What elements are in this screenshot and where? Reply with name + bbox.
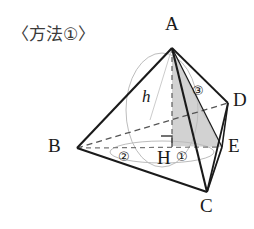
geometry-figure	[0, 0, 254, 229]
edge-C-E	[207, 147, 222, 192]
vertex-label-B: B	[48, 136, 61, 155]
vertex-label-D: D	[233, 90, 247, 109]
circled-number-three: ③	[192, 84, 204, 97]
height-label-h: h	[142, 88, 151, 105]
circled-number-one: ①	[176, 150, 188, 163]
circled-number-two: ②	[118, 150, 130, 163]
diagram-canvas: 〈方法①〉 A B C D E H h ① ② ③	[0, 0, 254, 229]
dashed-edge-B-E	[77, 147, 222, 148]
vertex-label-E: E	[228, 136, 240, 155]
vertex-label-C: C	[200, 196, 213, 215]
edge-A-B	[77, 48, 172, 148]
vertex-label-A: A	[165, 14, 179, 33]
vertex-label-H: H	[157, 148, 171, 167]
